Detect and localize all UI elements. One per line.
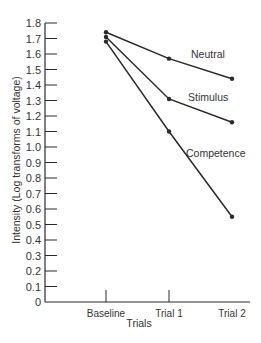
y-tick-label: 1.7: [26, 33, 41, 45]
data-point: [230, 215, 234, 219]
y-tick-label: 1.5: [26, 64, 41, 76]
y-tick-label: 1.4: [26, 79, 41, 91]
y-tick-label: 0.4: [26, 234, 41, 246]
y-tick-label: 1.0: [26, 141, 41, 153]
y-axis: 00.10.20.30.40.50.60.70.80.91.01.11.21.3…: [26, 17, 57, 308]
series-line-competence: [106, 42, 232, 217]
y-tick-label: 0.2: [26, 265, 41, 277]
y-tick-label: 0.7: [26, 188, 41, 200]
data-point: [230, 77, 234, 81]
y-tick-label: 0: [35, 296, 41, 308]
line-chart: 00.10.20.30.40.50.60.70.80.91.01.11.21.3…: [0, 0, 261, 343]
y-tick-label: 1.6: [26, 48, 41, 60]
data-point: [104, 30, 108, 34]
x-tick-label: Trial 2: [218, 308, 246, 319]
x-axis-title: Trials: [126, 317, 151, 329]
x-tick-label: Baseline: [87, 308, 126, 319]
x-tick-label: Trial 1: [155, 308, 183, 319]
series-label-stimulus: Stimulus: [188, 91, 228, 103]
y-tick-label: 0.5: [26, 219, 41, 231]
y-tick-label: 0.3: [26, 250, 41, 262]
y-tick-label: 0.9: [26, 157, 41, 169]
data-point: [167, 129, 171, 133]
data-point: [167, 97, 171, 101]
data-point: [104, 39, 108, 43]
data-point: [167, 56, 171, 60]
data-point: [104, 35, 108, 39]
series-label-neutral: Neutral: [191, 48, 225, 60]
y-tick-label: 1.2: [26, 110, 41, 122]
series-label-competence: Competence: [186, 147, 246, 159]
series-labels: NeutralStimulusCompetence: [186, 48, 246, 159]
y-axis-title: Intensity (Log transforms of voltage): [10, 76, 22, 244]
y-tick-label: 0.1: [26, 281, 41, 293]
y-tick-label: 0.6: [26, 203, 41, 215]
y-tick-label: 1.8: [26, 17, 41, 29]
y-tick-label: 0.8: [26, 172, 41, 184]
y-tick-label: 1.3: [26, 95, 41, 107]
x-axis: BaselineTrial 1Trial 2: [45, 290, 250, 319]
data-point: [230, 120, 234, 124]
y-tick-label: 1.1: [26, 126, 41, 138]
